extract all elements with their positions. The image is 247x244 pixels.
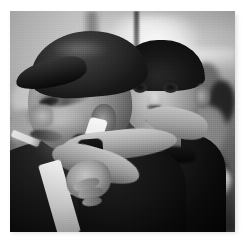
child-eye-right xyxy=(163,83,178,93)
photo-scene xyxy=(10,11,235,232)
man-cap-highlight xyxy=(51,38,110,60)
photograph xyxy=(10,11,235,232)
man-nose xyxy=(26,104,53,131)
image-canvas: Elderly man in a flat cap carrying a you… xyxy=(0,0,247,244)
